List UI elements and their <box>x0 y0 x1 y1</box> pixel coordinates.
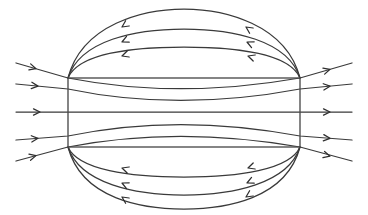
diagram-background <box>0 0 368 215</box>
field-line-diagram-canvas <box>0 0 368 215</box>
field-diagram-figure <box>0 0 368 215</box>
